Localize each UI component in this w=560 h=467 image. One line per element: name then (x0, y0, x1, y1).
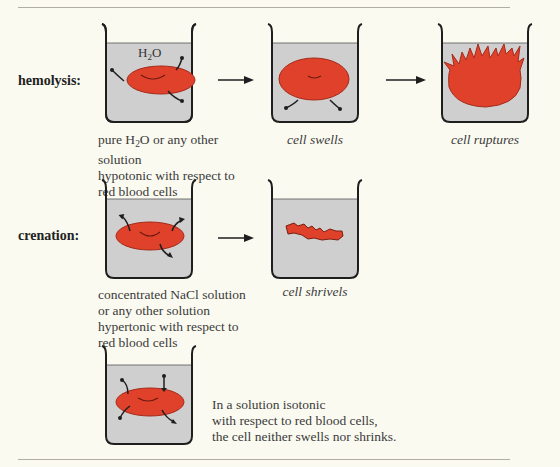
caption-line: concentrated NaCl solution (98, 287, 268, 303)
caption-line: with respect to red blood cells, (212, 413, 442, 429)
beaker-isotonic (98, 344, 200, 448)
caption-shriveled: cell shrivels (264, 284, 366, 300)
beaker-hypotonic: H2O (98, 22, 200, 126)
caption-isotonic: In a solution isotonic with respect to r… (212, 397, 442, 445)
beaker-rupture (434, 22, 536, 126)
caption-line: or any other solution (98, 303, 268, 319)
beaker-hypertonic (98, 178, 200, 282)
caption-swelling: cell swells (264, 132, 366, 148)
caption-line: hypertonic with respect to (98, 319, 268, 335)
arrow-icon (218, 75, 254, 85)
caption-line: pure H2O or any other solution (98, 132, 258, 168)
caption-hypertonic: concentrated NaCl solution or any other … (98, 287, 268, 351)
arrow-icon (218, 233, 254, 243)
top-rule (18, 7, 510, 8)
crenation-label: crenation: (18, 228, 79, 244)
bottom-rule (18, 459, 510, 460)
beaker-swelling (264, 22, 366, 126)
caption-line: the cell neither swells nor shrinks. (212, 429, 442, 445)
hemolysis-label: hemolysis: (18, 73, 81, 89)
beaker-shriveled (264, 178, 366, 282)
caption-line: In a solution isotonic (212, 397, 442, 413)
arrow-icon (386, 75, 426, 85)
caption-rupture: cell ruptures (424, 132, 546, 148)
